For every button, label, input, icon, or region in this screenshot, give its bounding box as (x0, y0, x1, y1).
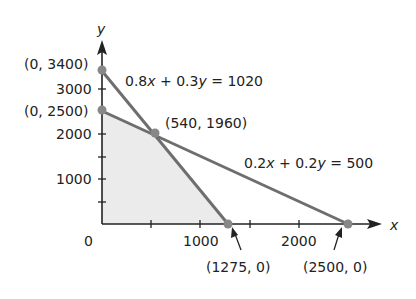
equation-label-2: 0.2x + 0.2y = 500 (244, 155, 373, 171)
point-label-540-1960: (540, 1960) (165, 115, 247, 131)
y-axis-label: y (96, 21, 106, 37)
point-2500-0 (344, 220, 353, 229)
point-label-2500-0: (2500, 0) (303, 259, 367, 275)
x-axis-label: x (389, 217, 399, 233)
pointer-arrow-1275 (231, 227, 241, 250)
point-label-0-2500: (0, 2500) (24, 103, 88, 119)
y-tick-label-1000: 1000 (56, 171, 92, 187)
point-1275-0 (224, 220, 233, 229)
x-tick-label-2000: 2000 (281, 233, 317, 249)
chart: y x 0 1000 2000 1000 2000 3000 (0, 3400)… (0, 0, 416, 299)
x-tick-label-1000: 1000 (183, 233, 219, 249)
point-540-1960 (151, 129, 160, 138)
y-tick-label-2000: 2000 (56, 126, 92, 142)
pointer-arrow-2500 (334, 227, 342, 250)
y-tick-label-3000: 3000 (56, 81, 92, 97)
origin-label: 0 (84, 233, 93, 249)
point-label-1275-0: (1275, 0) (206, 259, 270, 275)
point-label-0-3400: (0, 3400) (24, 56, 88, 72)
equation-label-1: 0.8x + 0.3y = 1020 (125, 73, 263, 89)
point-0-3400 (98, 66, 107, 75)
point-0-2500 (98, 106, 107, 115)
